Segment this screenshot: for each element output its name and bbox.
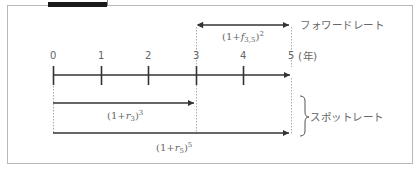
unit-label-year: (年) (298, 51, 318, 62)
tick-label-3: 3 (193, 51, 199, 61)
tick-label-2: 2 (145, 51, 151, 61)
spot-rate-5y-formula: (1+r5)5 (156, 142, 192, 155)
tick-label-1: 1 (98, 51, 104, 61)
spot-rate-3y-formula: (1+r3)3 (107, 110, 143, 123)
tick-label-4: 4 (240, 51, 246, 61)
spot-rate-label: スポットレート (310, 112, 384, 123)
tick-label-0: 0 (50, 51, 56, 61)
forward-rate-label: フォワードレート (300, 20, 384, 31)
forward-rate-formula: (1+f3,5)2 (222, 31, 264, 44)
spot-rate-brace (300, 96, 309, 136)
tick-label-5: 5 (288, 51, 294, 61)
